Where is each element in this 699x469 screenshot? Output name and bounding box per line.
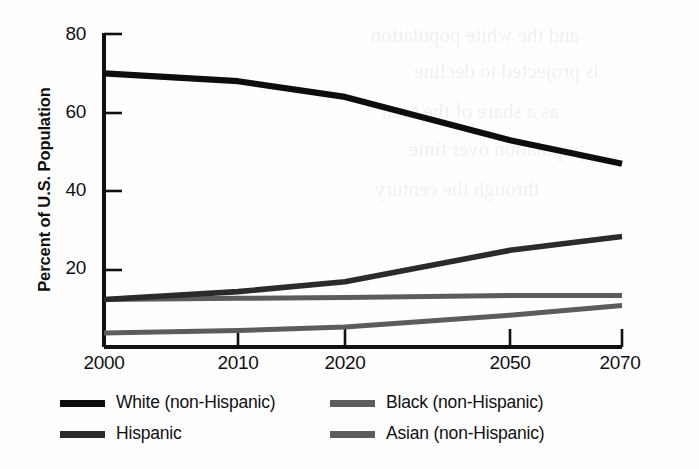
series-line-asian xyxy=(104,305,622,333)
legend-item-white: White (non-Hispanic) xyxy=(60,392,275,414)
legend-swatch-asian xyxy=(330,431,375,438)
series-line-hispanic xyxy=(104,237,622,300)
legend-label-black: Black (non-Hispanic) xyxy=(386,394,543,412)
legend-swatch-white xyxy=(60,400,105,407)
chart-legend: White (non-Hispanic) Hispanic Black (non… xyxy=(60,392,680,454)
chart-figure: and the white population is projected to… xyxy=(0,0,699,469)
legend-item-black: Black (non-Hispanic) xyxy=(330,392,543,414)
legend-label-hispanic: Hispanic xyxy=(116,425,182,443)
legend-swatch-hispanic xyxy=(60,431,105,438)
legend-label-white: White (non-Hispanic) xyxy=(116,394,275,412)
legend-label-asian: Asian (non-Hispanic) xyxy=(386,425,544,443)
series-line-white xyxy=(104,73,622,163)
legend-item-asian: Asian (non-Hispanic) xyxy=(330,423,544,445)
legend-swatch-black xyxy=(330,400,375,407)
legend-item-hispanic: Hispanic xyxy=(60,423,182,445)
y-axis-ticks xyxy=(104,34,122,270)
